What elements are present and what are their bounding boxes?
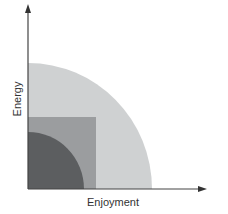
y-axis-label: Energy [11, 81, 23, 116]
energy-enjoyment-diagram: Enjoyment Energy [0, 0, 228, 214]
x-axis-arrowhead-icon [198, 186, 207, 192]
x-axis-label: Enjoyment [87, 196, 139, 208]
y-axis-arrowhead-icon [25, 4, 31, 13]
